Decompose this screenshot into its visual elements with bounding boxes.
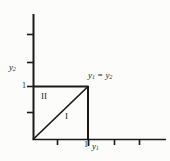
x-axis-tick-label-one: 1 — [84, 141, 88, 149]
diagonal-rhs-subscript: 2 — [109, 74, 112, 80]
region-two-label: II — [41, 92, 47, 101]
x-axis-label-subscript: 1 — [96, 145, 99, 151]
y-axis-tick-label-one: 1 — [22, 82, 26, 90]
unit-square-region-figure: y2 1 II I y1 = y2 1 y1 — [0, 0, 170, 161]
x-axis-label: y1 — [92, 142, 99, 152]
region-one-label: I — [65, 112, 68, 121]
diagonal-equals-sign: = — [95, 70, 106, 80]
y-axis-label: y2 — [9, 63, 16, 73]
diagonal-equation-label: y1 = y2 — [88, 71, 112, 81]
y-axis-label-subscript: 2 — [13, 66, 16, 72]
